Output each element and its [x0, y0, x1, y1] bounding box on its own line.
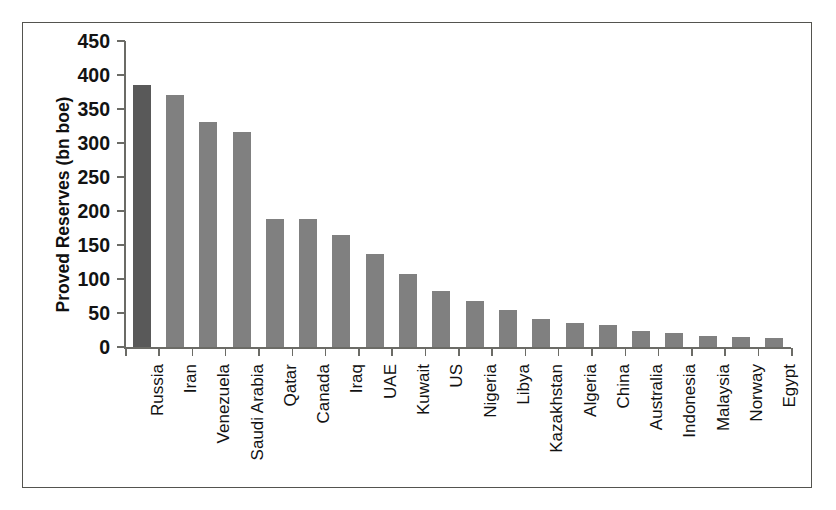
y-axis-tick-label: 400: [48, 64, 110, 87]
x-axis-tick-label-text: Indonesia: [680, 360, 700, 438]
x-axis-tick-label-text: Saudi Arabia: [248, 360, 268, 460]
y-axis-tick-label: 100: [48, 268, 110, 291]
x-axis-tick-label-text: Kazakhstan: [547, 360, 567, 453]
y-axis-tick-label: 50: [48, 302, 110, 325]
x-axis-tick-label-text: Algeria: [581, 360, 601, 417]
y-axis-tick-label: 300: [48, 132, 110, 155]
x-axis-tick-label-text: Norway: [747, 360, 767, 422]
x-axis-tick-label-text: Iran: [181, 360, 201, 393]
x-axis-tick-label-text: Malaysia: [714, 360, 734, 431]
x-axis-tick-label-text: Russia: [148, 360, 168, 416]
chart-figure: Proved Reserves (bn boe) 450400350300250…: [0, 0, 836, 510]
x-axis-tick-label-text: Australia: [647, 360, 667, 430]
bar-iran: [166, 95, 184, 347]
x-axis-tick-label-text: Venezuela: [214, 360, 234, 443]
x-axis-tick-label-text: Canada: [314, 360, 334, 424]
y-axis-tick-label: 150: [48, 234, 110, 257]
y-axis-tick-labels: 450400350300250200150100500: [35, 0, 110, 510]
x-axis-tick-label-text: Egypt: [780, 360, 800, 407]
x-axis-tick-label-text: Kuwait: [414, 360, 434, 415]
y-axis-tick-label: 0: [48, 336, 110, 359]
y-axis-tick-label: 450: [48, 30, 110, 53]
x-axis-tick-label-text: UAE: [381, 360, 401, 399]
x-axis-tick-label-text: Nigeria: [481, 360, 501, 418]
x-axis-tick-label-text: Iraq: [347, 360, 367, 393]
y-axis-tick-label: 250: [48, 166, 110, 189]
y-axis-tick-label: 200: [48, 200, 110, 223]
x-axis-tick-label-text: China: [614, 360, 634, 408]
x-axis-tick: [125, 348, 127, 356]
x-axis-tick-label-text: US: [447, 360, 467, 388]
y-axis-tick-label: 350: [48, 98, 110, 121]
x-axis-tick-label-text: Qatar: [281, 360, 301, 407]
x-axis-tick-label-text: Libya: [514, 360, 534, 405]
